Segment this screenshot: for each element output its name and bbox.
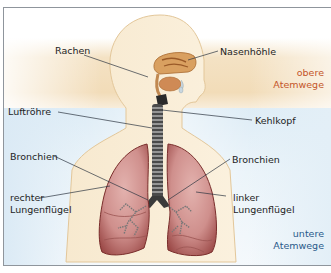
label-nasenhoehle: Nasenhöhle bbox=[220, 46, 276, 57]
label-bronchien-right: Bronchien bbox=[232, 154, 280, 165]
zone-upper-line2: Atemwege bbox=[273, 79, 324, 91]
label-bronchien-left: Bronchien bbox=[10, 151, 58, 162]
label-linker-lungenfluegel-1: linker bbox=[233, 192, 259, 203]
label-rachen: Rachen bbox=[55, 45, 90, 56]
label-luftroehre: Luftröhre bbox=[8, 106, 51, 117]
label-rechter-lungenfluegel-1: rechter bbox=[10, 192, 44, 203]
zone-upper-line1: obere bbox=[273, 67, 324, 79]
label-rechter-lungenfluegel-2: Lungenflügel bbox=[10, 204, 72, 215]
label-kehlkopf: Kehlkopf bbox=[255, 115, 296, 126]
zone-upper-airways: obere Atemwege bbox=[273, 67, 324, 91]
zone-lower-airways: untere Atemwege bbox=[273, 228, 324, 252]
zone-lower-line1: untere bbox=[273, 228, 324, 240]
label-linker-lungenfluegel-2: Lungenflügel bbox=[233, 204, 295, 215]
zone-lower-line2: Atemwege bbox=[273, 240, 324, 252]
